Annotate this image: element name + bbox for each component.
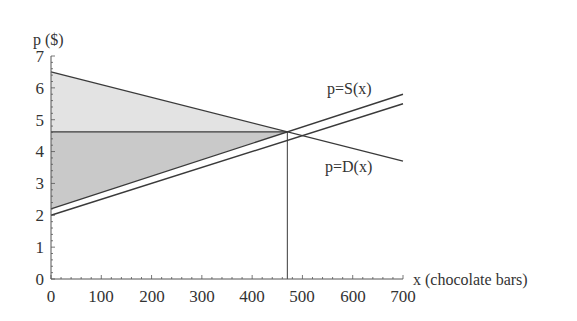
y-tick-label: 1	[36, 238, 45, 257]
y-tick-label: 4	[36, 142, 45, 161]
y-tick-labels: 0 1 2 3 4 5 6 7	[36, 47, 45, 289]
x-tick-label: 400	[239, 287, 265, 306]
x-tick-label: 600	[340, 287, 366, 306]
y-tick-label: 7	[36, 47, 45, 66]
y-tick-label: 6	[36, 79, 45, 98]
x-tick-label: 700	[390, 287, 416, 306]
x-tick-labels: 0 100 200 300 400 500 600 700	[47, 287, 416, 306]
x-tick-label: 500	[289, 287, 315, 306]
y-tick-label: 2	[36, 206, 45, 225]
y-tick-label: 0	[36, 270, 45, 289]
x-tick-label: 100	[88, 287, 114, 306]
x-tick-label: 200	[139, 287, 165, 306]
demand-curve-label: p=D(x)	[325, 158, 372, 176]
supply-demand-chart: p ($) x (chocolate bars) p=S(x) p=D(x) 0…	[0, 0, 577, 321]
x-axis-title: x (chocolate bars)	[413, 271, 528, 289]
x-tick-label: 300	[189, 287, 215, 306]
x-tick-label: 0	[47, 287, 56, 306]
supply-curve-label: p=S(x)	[327, 80, 372, 98]
plot-area	[51, 72, 403, 279]
y-tick-label: 3	[36, 174, 45, 193]
y-tick-label: 5	[36, 111, 45, 130]
